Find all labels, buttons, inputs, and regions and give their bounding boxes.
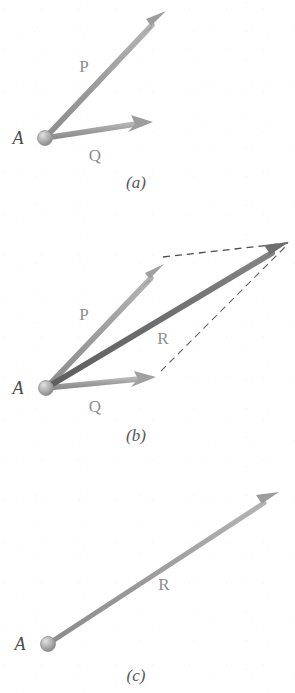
vector-label-q-panel-b: Q	[89, 397, 101, 416]
panel-a: A P Q (a)	[12, 11, 167, 192]
panel-caption-b: (b)	[126, 426, 146, 445]
vector-label-r-panel-b: R	[157, 329, 169, 348]
origin-label-panel-c: A	[14, 634, 27, 654]
vector-label-p-panel-b: P	[79, 305, 88, 324]
vector-r-panel-c	[48, 492, 279, 644]
origin-dot-panel-b	[39, 381, 54, 396]
origin-dot-panel-c	[41, 637, 56, 652]
vector-label-p-panel-a: P	[79, 57, 88, 76]
vector-addition-figure: A P Q (a)	[0, 0, 295, 693]
panel-caption-a: (a)	[126, 173, 146, 192]
panel-c: A R (c)	[14, 492, 280, 685]
vector-r-arrowhead	[259, 242, 289, 262]
vector-r-shaft	[48, 503, 264, 644]
origin-label-panel-a: A	[12, 128, 25, 148]
panel-b: A P Q R (b)	[12, 242, 290, 445]
figure-canvas: A P Q (a)	[0, 0, 295, 693]
origin-dot-panel-a	[38, 131, 53, 146]
panel-caption-c: (c)	[127, 666, 146, 685]
vector-label-r-panel-c: R	[158, 575, 170, 594]
vector-p-panel-a	[45, 11, 166, 138]
origin-label-panel-b: A	[12, 378, 25, 398]
vector-label-q-panel-a: Q	[89, 146, 101, 165]
